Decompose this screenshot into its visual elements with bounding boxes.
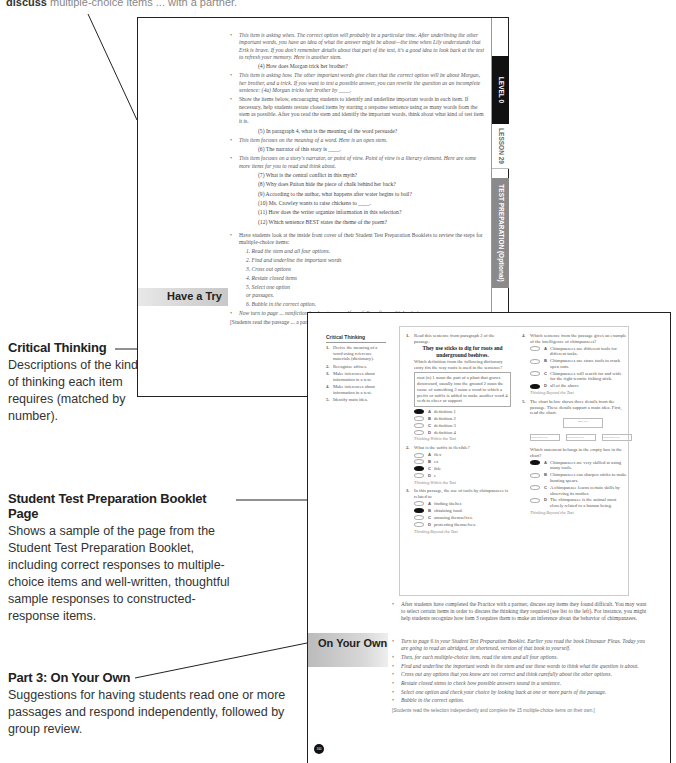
bullet: Select one option and check your choice … — [392, 689, 652, 696]
answer-bubble[interactable] — [530, 371, 540, 376]
step: 2. Find and underline the important word… — [230, 257, 485, 264]
step: or passages. — [230, 292, 485, 299]
answer-bubble-filled[interactable] — [414, 466, 424, 471]
stem: (6) The narrator of this story is ____. — [230, 146, 485, 153]
answer-bubble[interactable] — [530, 346, 540, 351]
answer-bubble[interactable] — [530, 485, 540, 490]
bullet: Find and underline the important words i… — [392, 663, 652, 670]
answer-bubble[interactable] — [530, 498, 540, 503]
main-idea-chart: main idea Supporting Detail Supporting D… — [530, 418, 627, 444]
answer-option[interactable]: Afinding shelter. — [414, 501, 511, 507]
bullet: Cross out any options that you know are … — [392, 671, 652, 678]
answer-bubble[interactable] — [530, 473, 540, 478]
critical-thinking-box: Critical Thinking 1.Derive the meaning o… — [326, 335, 386, 404]
step: 3. Cross out options — [230, 266, 485, 273]
answer-bubble[interactable] — [414, 522, 424, 527]
answer-bubble-filled[interactable] — [414, 409, 424, 414]
answer-option[interactable]: CChimpanzees will search far and wide fo… — [530, 371, 627, 382]
detail-box: Supporting Detail — [602, 434, 632, 441]
step: 6. Bubble in the correct option. — [230, 301, 485, 308]
answer-option[interactable]: BChimpanzees use stone tools to crack op… — [530, 358, 627, 369]
booklet-column-left: 1. Read this sentence from paragraph 2 o… — [406, 333, 511, 537]
answer-option[interactable]: CA chimpanzee learns certain skills by o… — [530, 485, 627, 496]
answer-bubble[interactable] — [414, 515, 424, 520]
front-teacher-page: Critical Thinking 1.Derive the meaning o… — [307, 312, 671, 763]
top-fragment-text: discuss multiple-choice items ... with a… — [6, 0, 237, 8]
answer-bubble[interactable] — [414, 423, 424, 428]
main-idea-box: main idea — [563, 418, 603, 428]
test-prep-tab: TEST PREPARATION (Optional) — [492, 178, 509, 288]
callout-on-your-own: Part 3: On Your Own Suggestions for havi… — [8, 670, 298, 738]
callout-critical-thinking: Critical Thinking Descriptions of the ki… — [8, 340, 138, 425]
answer-option[interactable]: Bdefinition 2 — [414, 416, 511, 422]
critical-thinking-item: 2.Recognize affixes. — [326, 364, 386, 370]
bullet: This item focuses on the meaning of a wo… — [230, 137, 485, 144]
stem: (10) Ms. Crowley wants to raise chickens… — [230, 200, 485, 207]
detail-box: Supporting Detail — [530, 434, 560, 441]
page-number: 160 — [314, 744, 324, 754]
callout-body: Suggestions for having students read one… — [8, 687, 298, 738]
question-5: 5. The chart below shows three details f… — [522, 399, 627, 516]
stem: (9) According to the author, what happen… — [230, 191, 485, 198]
answer-option[interactable]: AChimpanzees are very skilled at using m… — [530, 460, 627, 471]
bullet: Show the items below, encouraging studen… — [230, 96, 485, 125]
answer-bubble[interactable] — [414, 416, 424, 421]
answer-bubble-filled[interactable] — [414, 508, 424, 513]
answer-bubble[interactable] — [414, 430, 424, 435]
bullet: Restate closed stems to check how possib… — [392, 680, 652, 687]
student-booklet-sample: 1. Read this sentence from paragraph 2 o… — [399, 326, 629, 596]
step: 5. Select one option — [230, 284, 485, 291]
answer-bubble[interactable] — [414, 453, 424, 458]
answer-option[interactable]: Dprotecting themselves. — [414, 522, 511, 528]
callout-title: Student Test Preparation Booklet Page — [8, 491, 233, 521]
answer-option[interactable]: De — [414, 473, 511, 479]
answer-bubble[interactable] — [414, 459, 424, 464]
bullet: This item is asking when. The correct op… — [230, 32, 485, 61]
stem: (12) Which sentence BEST states the them… — [230, 219, 485, 226]
critical-thinking-title: Critical Thinking — [326, 335, 386, 343]
note: [Students read the selection independent… — [392, 707, 652, 714]
back-page-content: This item is asking when. The correct op… — [230, 32, 485, 327]
answer-bubble[interactable] — [530, 359, 540, 364]
question-3: 3. In this passage, the use of tools by … — [406, 488, 511, 534]
bullet: Then, for each multiple-choice item, rea… — [392, 654, 652, 661]
callout-title: Critical Thinking — [8, 340, 138, 355]
answer-option[interactable]: Aflex — [414, 452, 511, 458]
answer-option[interactable]: Adefinition 1 — [414, 409, 511, 415]
callout-body: Descriptions of the kind of thinking eac… — [8, 357, 138, 425]
critical-thinking-item: 4.Make inferences about information in a… — [326, 384, 386, 396]
answer-bubble-filled[interactable] — [530, 460, 540, 465]
on-your-own-section: Turn to page 6 in your Student Test Prep… — [392, 638, 652, 714]
step: 4. Restate closed items — [230, 275, 485, 282]
answer-bubble-filled[interactable] — [530, 384, 540, 389]
answer-option[interactable]: DThe chimpanzee is the animal most close… — [530, 497, 627, 508]
answer-bubble[interactable] — [414, 473, 424, 478]
stem: (4) How does Morgan trick her brother? — [230, 63, 485, 70]
answer-option[interactable]: Cdefinition 3 — [414, 423, 511, 429]
answer-option[interactable]: Bex — [414, 459, 511, 465]
bullet: This item is asking how. The other impor… — [230, 72, 485, 94]
level-tab: LEVEL 0 — [492, 56, 509, 124]
bullet: Turn to page 6 in your Student Test Prep… — [392, 638, 652, 652]
lesson-tab: LESSON 29 — [492, 124, 509, 169]
callout-booklet-page: Student Test Preparation Booklet Page Sh… — [8, 491, 233, 625]
callout-body: Shows a sample of the page from the Stud… — [8, 523, 233, 625]
answer-option[interactable]: BChimpanzees can sharpen sticks to make … — [530, 472, 627, 483]
callout-title: Part 3: On Your Own — [8, 670, 298, 685]
stem: (11) How does the writer organize inform… — [230, 209, 485, 216]
answer-option[interactable]: Ddefinition 4 — [414, 430, 511, 436]
have-a-try-label: Have a Try — [138, 288, 228, 306]
question-2: 2. What is the suffix in flexible? Aflex… — [406, 445, 511, 485]
question-4: 4. Which sentence from the passage gives… — [522, 333, 627, 396]
answer-bubble[interactable] — [414, 501, 424, 506]
step: 1. Read the stem and all four options. — [230, 248, 485, 255]
answer-option[interactable]: Cible — [414, 466, 511, 472]
answer-option[interactable]: Bobtaining food. — [414, 508, 511, 514]
critical-thinking-item: 1.Derive the meaning of a word using ref… — [326, 345, 386, 362]
critical-thinking-item: 3.Make inferences about information in a… — [326, 371, 386, 383]
answer-option[interactable]: AChimpanzees use different tools for dif… — [530, 346, 627, 357]
booklet-column-right: 4. Which sentence from the passage gives… — [522, 333, 627, 519]
answer-option[interactable]: Camusing themselves. — [414, 515, 511, 521]
bullet: Have students look at the inside front c… — [230, 232, 485, 247]
answer-option[interactable]: Dall of the above — [530, 383, 627, 389]
